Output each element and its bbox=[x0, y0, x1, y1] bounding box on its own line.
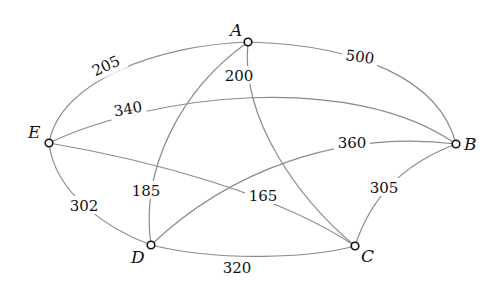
node-label-E: E bbox=[27, 122, 41, 142]
weight-label-C-B: 305 bbox=[366, 178, 402, 197]
weight-label-D-B: 360 bbox=[334, 133, 370, 152]
edge-E-A bbox=[49, 42, 248, 143]
svg-text:185: 185 bbox=[132, 182, 161, 200]
weighted-graph-diagram: 205 500 340 200 185 165 360 302 320 305 bbox=[0, 0, 504, 293]
svg-text:200: 200 bbox=[225, 67, 254, 85]
weight-label-A-C: 200 bbox=[222, 66, 256, 85]
svg-text:302: 302 bbox=[70, 197, 99, 215]
svg-text:500: 500 bbox=[345, 46, 376, 68]
node-A bbox=[244, 38, 252, 46]
svg-text:305: 305 bbox=[370, 179, 399, 197]
svg-text:320: 320 bbox=[223, 259, 252, 277]
weight-label-E-A: 205 bbox=[84, 48, 129, 83]
node-label-B: B bbox=[463, 134, 477, 154]
edge-D-C bbox=[151, 245, 355, 256]
weight-label-E-D: 302 bbox=[66, 196, 102, 215]
edge-E-C bbox=[49, 143, 355, 246]
node-label-D: D bbox=[130, 247, 145, 267]
node-label-C: C bbox=[361, 246, 374, 266]
node-B bbox=[452, 140, 460, 148]
svg-text:340: 340 bbox=[112, 98, 143, 121]
weight-label-A-D: 185 bbox=[129, 181, 163, 200]
weight-label-E-B: 340 bbox=[109, 97, 148, 121]
weight-label-A-B: 500 bbox=[341, 46, 379, 69]
node-C bbox=[351, 242, 359, 250]
svg-text:360: 360 bbox=[338, 134, 367, 152]
svg-text:165: 165 bbox=[249, 187, 278, 205]
node-label-A: A bbox=[228, 20, 242, 40]
node-E bbox=[45, 139, 53, 147]
graph-svg: 205 500 340 200 185 165 360 302 320 305 bbox=[0, 0, 504, 293]
weight-label-E-C: 165 bbox=[245, 186, 281, 205]
weight-label-D-C: 320 bbox=[219, 258, 255, 277]
node-D bbox=[147, 241, 155, 249]
